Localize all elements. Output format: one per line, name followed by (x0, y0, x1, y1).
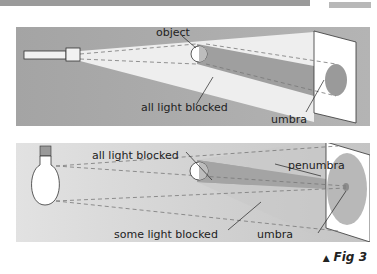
umbra-spot (343, 183, 349, 191)
flashlight-body (24, 51, 66, 59)
figure-caption: ▲Fig 3 (323, 250, 367, 264)
label-object: object (156, 27, 191, 39)
flashlight-head (66, 48, 80, 61)
label-umbra: umbra (271, 113, 307, 126)
label-all-light-blocked: all light blocked (141, 101, 228, 114)
label-umbra: umbra (257, 228, 293, 241)
label-all-light-blocked: all light blocked (92, 149, 179, 162)
triangle-icon: ▲ (323, 253, 330, 263)
caption-text: Fig 3 (334, 250, 367, 264)
label-some-light-blocked: some light blocked (114, 228, 218, 241)
bulb-panel: all light blocked penumbra some light bl… (16, 143, 370, 242)
umbra-spot (325, 64, 347, 96)
decorative-top-bar (0, 0, 310, 6)
flashlight-panel: object all light blocked umbra (16, 27, 370, 126)
label-penumbra: penumbra (288, 159, 345, 172)
bulb-cap (40, 146, 51, 156)
decorative-top-bar-right (329, 2, 371, 8)
